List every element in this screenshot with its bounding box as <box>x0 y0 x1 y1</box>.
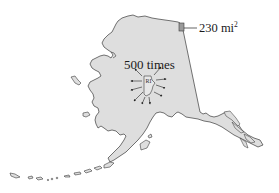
aleutian-islands <box>10 162 114 181</box>
st-lawrence-island <box>71 76 81 85</box>
area-unit: mi <box>221 21 234 35</box>
kodiak-island <box>140 140 150 150</box>
rhode-island-label: RI <box>146 78 152 84</box>
small-island <box>148 134 152 138</box>
nunivak-island <box>83 112 90 117</box>
area-value: 230 <box>199 21 218 35</box>
scale-label: 500 times <box>124 58 175 71</box>
area-callout-label: 230 mi2 <box>199 21 238 35</box>
area-square <box>179 23 184 31</box>
area-exponent: 2 <box>234 20 238 29</box>
alaska-mainland <box>88 15 263 162</box>
